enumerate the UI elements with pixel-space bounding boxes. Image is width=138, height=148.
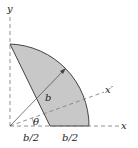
right-segment-label: b/2 <box>62 132 78 143</box>
x-axis-label: x <box>121 120 127 131</box>
angle-label: θ <box>33 116 39 127</box>
diagram-canvas: y x x′ b θ b/2 b/2 <box>0 0 138 148</box>
y-axis-label: y <box>6 3 13 14</box>
radius-label: b <box>45 92 51 103</box>
left-segment-label: b/2 <box>23 132 39 143</box>
x-prime-label: x′ <box>105 84 114 95</box>
